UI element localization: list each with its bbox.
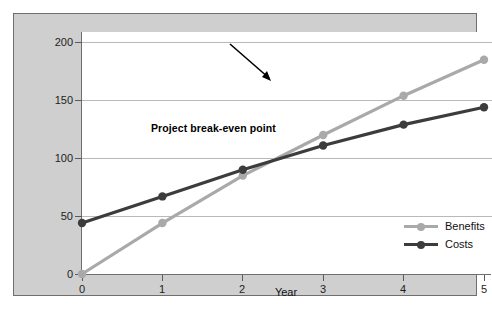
annotation-arrow <box>230 44 271 81</box>
x-axis-title: Year <box>81 286 491 298</box>
x-tick-3 <box>323 275 324 281</box>
series-markers-costs <box>78 103 488 227</box>
x-tick-label-5: 5 <box>481 284 487 295</box>
y-tick-label-200: 200 <box>55 37 73 48</box>
y-tick-50 <box>75 216 82 217</box>
break-even-annotation-label: Project break-even point <box>151 122 276 134</box>
x-tick-label-2: 2 <box>239 284 245 295</box>
y-tick-label-100: 100 <box>55 153 73 164</box>
chart-legend: Benefits Costs <box>404 217 485 253</box>
y-tick-100 <box>75 158 82 159</box>
legend-marker-benefits <box>404 220 438 232</box>
x-tick-label-0: 0 <box>79 284 85 295</box>
chart-panel: Dollars ($ thousands) Year 200 150 100 5… <box>13 13 477 296</box>
x-tick-label-1: 1 <box>159 284 165 295</box>
legend-item-costs: Costs <box>404 235 485 253</box>
y-tick-label-0: 0 <box>67 269 73 280</box>
legend-item-benefits: Benefits <box>404 217 485 235</box>
x-tick-label-4: 4 <box>400 284 406 295</box>
y-tick-200 <box>75 42 82 43</box>
x-tick-2 <box>242 275 243 281</box>
x-tick-1 <box>162 275 163 281</box>
legend-label-costs: Costs <box>445 238 473 250</box>
y-tick-label-50: 50 <box>61 211 73 222</box>
y-tick-150 <box>75 100 82 101</box>
series-line-costs <box>82 107 484 223</box>
y-tick-label-150: 150 <box>55 95 73 106</box>
x-tick-5 <box>484 275 485 281</box>
legend-marker-costs <box>404 238 438 250</box>
legend-label-benefits: Benefits <box>445 220 485 232</box>
x-tick-4 <box>403 275 404 281</box>
x-tick-label-3: 3 <box>320 284 326 295</box>
